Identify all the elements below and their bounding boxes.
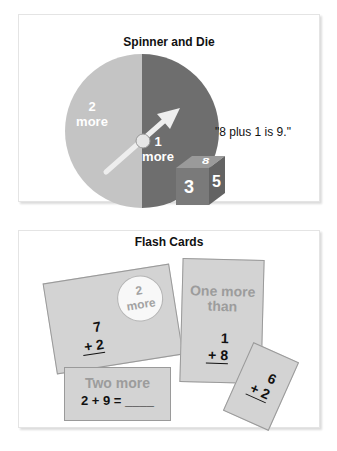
card-top-number: 7 — [78, 318, 102, 337]
card-bottom-number: + 2 — [81, 336, 105, 356]
card-heading: One more than — [182, 283, 263, 315]
panel-title: Flash Cards — [19, 235, 319, 249]
flash-card-two-more: Two more 2 + 9 = ____ — [64, 367, 171, 421]
card-heading: Two more — [65, 375, 170, 391]
die-top-number: 8 — [202, 155, 209, 166]
card-top-number: 1 — [206, 330, 228, 347]
spinner-and-die-panel: Spinner and Die 2 more 1 more 8 3 5 "8 p… — [18, 14, 320, 202]
flash-cards-panel: Flash Cards 2 more 7 + 2 Two more 2 + 9 … — [18, 230, 320, 428]
die-side-number: 5 — [212, 173, 221, 191]
die-front-number: 3 — [184, 177, 194, 198]
spinner-left-label: 2 more — [67, 99, 117, 129]
flash-card-two-more-circle: 2 more 7 + 2 — [43, 264, 184, 375]
quote-text: "8 plus 1 is 9." — [215, 125, 291, 139]
circle-badge: 2 more — [114, 272, 167, 325]
card-equation: 2 + 9 = ____ — [65, 393, 170, 408]
panel-title: Spinner and Die — [19, 35, 319, 49]
card-bottom-number: + 8 — [206, 347, 228, 365]
